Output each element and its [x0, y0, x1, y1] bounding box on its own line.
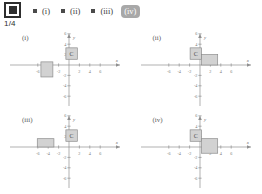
svg-text:-6: -6	[63, 176, 67, 181]
svg-text:-6: -6	[167, 69, 171, 74]
plot-cell-ii[interactable]: (ii) -6-4-2246-6-4-2246xyC	[131, 30, 262, 112]
answer-option-iv[interactable]: (iv)	[121, 5, 140, 18]
svg-text:6: 6	[195, 32, 197, 36]
svg-text:C: C	[70, 51, 74, 57]
answer-option-i[interactable]: (i)	[30, 5, 54, 18]
slide-frame-icon[interactable]	[4, 2, 21, 18]
svg-text:6: 6	[195, 114, 197, 118]
svg-text:-2: -2	[63, 155, 67, 160]
svg-text:C: C	[193, 51, 197, 57]
coordinate-plane: -6-4-2246-6-4-2246xyC	[137, 114, 255, 190]
svg-text:4: 4	[195, 42, 198, 47]
svg-text:-4: -4	[63, 83, 67, 88]
svg-text:-2: -2	[187, 151, 191, 156]
answer-option-label: (iii)	[100, 6, 113, 16]
svg-text:-4: -4	[177, 69, 181, 74]
svg-text:-2: -2	[63, 73, 67, 78]
square-bullet-icon	[33, 9, 37, 13]
answer-option-label: (ii)	[70, 6, 80, 16]
slide-navigator[interactable]: 1/4	[4, 2, 26, 29]
coordinate-plane: -6-4-2246-6-4-2246xyC	[6, 32, 124, 108]
svg-text:x: x	[245, 58, 249, 63]
svg-text:x: x	[115, 140, 119, 145]
answer-option-ii[interactable]: (ii)	[58, 5, 84, 18]
answer-option-list: (i) (ii) (iii) (iv)	[30, 2, 144, 20]
svg-text:-2: -2	[187, 69, 191, 74]
plot-grid: (i) -6-4-2246-6-4-2246xyC (ii) -6-4-2246…	[0, 30, 261, 194]
svg-text:4: 4	[195, 124, 198, 129]
answer-option-label: (i)	[42, 6, 50, 16]
svg-text:6: 6	[230, 151, 232, 156]
question-toolbar: 1/4 (i) (ii) (iii) (iv)	[0, 0, 261, 30]
svg-text:y: y	[72, 117, 76, 122]
svg-text:C: C	[193, 133, 197, 139]
svg-text:6: 6	[64, 32, 66, 36]
svg-text:-6: -6	[63, 94, 67, 99]
coordinate-plane: -6-4-2246-6-4-2246xyC	[6, 114, 124, 190]
svg-text:6: 6	[99, 151, 101, 156]
plot-cell-iv[interactable]: (iv) -6-4-2246-6-4-2246xyC	[131, 112, 262, 194]
svg-text:-2: -2	[57, 69, 61, 74]
square-bullet-icon	[91, 9, 95, 13]
svg-text:4: 4	[219, 69, 222, 74]
svg-text:-6: -6	[193, 176, 197, 181]
answer-option-iii[interactable]: (iii)	[88, 5, 117, 18]
svg-text:-4: -4	[63, 165, 67, 170]
svg-text:-6: -6	[36, 151, 40, 156]
svg-text:-2: -2	[57, 151, 61, 156]
svg-text:-4: -4	[193, 165, 197, 170]
svg-text:4: 4	[89, 69, 92, 74]
coordinate-plane: -6-4-2246-6-4-2246xyC	[137, 32, 255, 108]
svg-text:2: 2	[78, 151, 80, 156]
plot-cell-iii[interactable]: (iii) -6-4-2246-6-4-2246xyC	[0, 112, 131, 194]
svg-text:4: 4	[219, 151, 222, 156]
svg-text:6: 6	[99, 69, 101, 74]
svg-text:x: x	[115, 58, 119, 63]
svg-text:y: y	[203, 35, 207, 40]
svg-text:4: 4	[64, 42, 67, 47]
svg-text:x: x	[245, 140, 249, 145]
svg-text:4: 4	[89, 151, 92, 156]
svg-text:-4: -4	[46, 151, 50, 156]
svg-text:4: 4	[64, 124, 67, 129]
svg-text:2: 2	[209, 69, 211, 74]
svg-text:6: 6	[64, 114, 66, 118]
svg-text:2: 2	[78, 69, 80, 74]
svg-text:-6: -6	[167, 151, 171, 156]
svg-text:C: C	[70, 133, 74, 139]
svg-text:y: y	[203, 117, 207, 122]
svg-text:-2: -2	[193, 155, 197, 160]
svg-text:-4: -4	[177, 151, 181, 156]
svg-text:-6: -6	[193, 94, 197, 99]
svg-text:-6: -6	[36, 69, 40, 74]
svg-text:6: 6	[230, 69, 232, 74]
svg-text:-4: -4	[193, 83, 197, 88]
svg-text:-2: -2	[193, 73, 197, 78]
answer-option-label: (iv)	[124, 6, 136, 16]
square-bullet-icon	[61, 9, 65, 13]
slide-counter: 1/4	[4, 19, 26, 29]
slide-frame-inner	[9, 6, 17, 14]
svg-text:y: y	[72, 35, 76, 40]
plot-cell-i[interactable]: (i) -6-4-2246-6-4-2246xyC	[0, 30, 131, 112]
